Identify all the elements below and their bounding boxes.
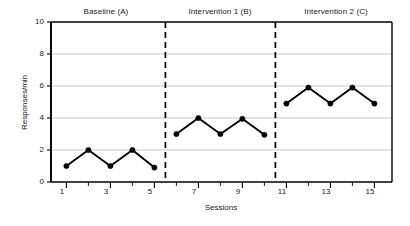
data-point-markers (64, 85, 377, 170)
axis-ticks (47, 22, 374, 188)
chart-plot-area (0, 0, 410, 226)
data-series-lines (66, 88, 374, 168)
plot-frame (51, 22, 392, 182)
phase-divider-lines (165, 22, 275, 182)
chart-container: Baseline (A) Intervention 1 (B) Interven… (0, 0, 410, 226)
